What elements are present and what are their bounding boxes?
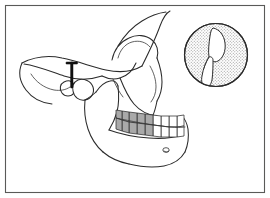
tooth-lower-6 (137, 123, 145, 135)
tooth-upper-2 (169, 116, 177, 127)
tooth-lower-4 (153, 125, 161, 137)
skull-illustration (0, 0, 270, 198)
illustration-container: Lateral view of skull with temporomandib… (0, 0, 270, 198)
tooth-upper-5 (145, 114, 153, 125)
tooth-upper-1 (177, 115, 184, 127)
tooth-lower-2 (169, 127, 177, 137)
tooth-lower-5 (145, 124, 153, 136)
tooth-lower-8 (122, 120, 129, 133)
magnified-detail-inset (185, 24, 248, 88)
tooth-upper-4 (153, 115, 161, 126)
tooth-upper-3 (161, 116, 169, 127)
tooth-lower-3 (161, 126, 169, 137)
tooth-lower-9 (116, 118, 122, 131)
tooth-lower-7 (129, 122, 137, 134)
